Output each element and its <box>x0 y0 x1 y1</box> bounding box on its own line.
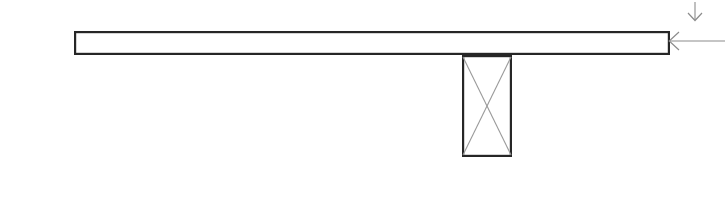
drawing-vector-surface <box>0 0 725 199</box>
canvas-background <box>0 0 725 199</box>
horizontal-beam <box>75 32 669 54</box>
technical-drawing-canvas <box>0 0 725 199</box>
